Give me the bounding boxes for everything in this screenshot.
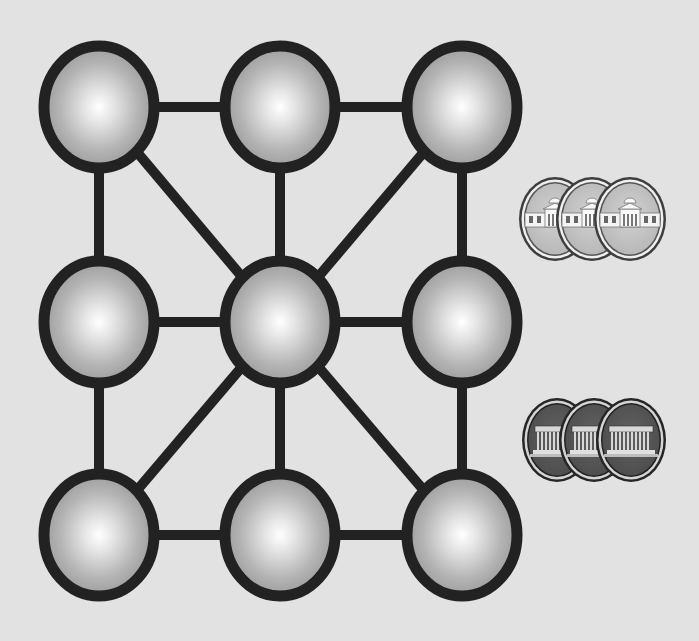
node-middle-right[interactable]	[407, 261, 517, 383]
node-bottom-center[interactable]	[225, 474, 335, 596]
node-middle-left[interactable]	[44, 261, 154, 383]
node-bottom-left[interactable]	[44, 474, 154, 596]
silver-coin-stack[interactable]	[519, 177, 666, 261]
node-top-center[interactable]	[225, 46, 335, 168]
dark-coin-stack[interactable]	[522, 398, 666, 482]
node-bottom-right[interactable]	[407, 474, 517, 596]
game-board	[0, 0, 699, 641]
node-top-right[interactable]	[407, 46, 517, 168]
silver-coin-3[interactable]	[594, 177, 666, 261]
dark-coin-3[interactable]	[596, 398, 666, 482]
node-center[interactable]	[225, 261, 335, 383]
node-top-left[interactable]	[44, 46, 154, 168]
board-nodes	[44, 46, 517, 596]
